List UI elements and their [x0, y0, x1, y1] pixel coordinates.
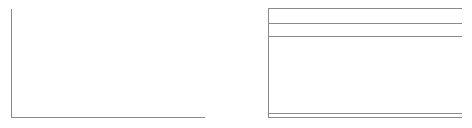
table-header-divider-rule: [268, 23, 462, 24]
plot-plotting-area: [12, 9, 205, 117]
table-subheader-divider-rule: [268, 36, 462, 37]
table-header-band: [269, 9, 462, 23]
plot-x-axis-line: [11, 117, 205, 118]
plot-y-axis-line: [11, 9, 12, 117]
table-subheader-band: [269, 24, 462, 36]
plot-panel: [0, 0, 236, 128]
table-top-rule: [268, 8, 462, 9]
table-bottom-rule-lower: [268, 117, 462, 118]
table-panel: [236, 0, 472, 128]
table-left-border-line: [268, 8, 269, 117]
screenshot-canvas: [0, 0, 472, 128]
table-bottom-rule-upper: [268, 113, 462, 114]
